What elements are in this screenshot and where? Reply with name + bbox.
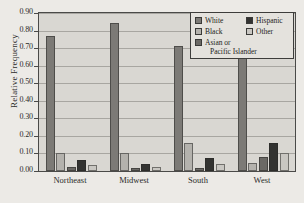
legend-label: Hispanic xyxy=(256,16,283,25)
y-axis-tick: 0.80 xyxy=(0,31,38,32)
bar xyxy=(259,157,268,171)
bar xyxy=(67,167,76,171)
legend-swatch xyxy=(195,39,202,46)
y-axis-tick: 0.00 xyxy=(0,171,38,172)
y-axis-tick-label: 0.40 xyxy=(19,95,33,104)
y-axis-tick-label: 0.60 xyxy=(19,60,33,69)
bar xyxy=(280,153,289,171)
bar xyxy=(238,58,247,171)
bar-chart: Relative Frequency 0.900.800.700.600.500… xyxy=(0,0,304,203)
legend-label: Black xyxy=(205,27,223,36)
bar xyxy=(248,163,257,171)
y-axis-tick: 0.50 xyxy=(0,83,38,84)
legend-item: Black xyxy=(195,27,223,36)
y-axis-tick-label: 0.50 xyxy=(19,77,33,86)
bar xyxy=(131,168,140,172)
bar xyxy=(174,46,183,171)
bar xyxy=(120,153,129,171)
legend-label: Asian orPacific Islander xyxy=(205,38,257,56)
y-axis-tick: 0.60 xyxy=(0,66,38,67)
x-axis-label: Midwest xyxy=(102,175,166,185)
bar xyxy=(195,168,204,172)
y-axis-tick: 0.30 xyxy=(0,118,38,119)
bar xyxy=(77,160,86,171)
y-axis-tick-label: 0.80 xyxy=(19,25,33,34)
y-axis-tick: 0.10 xyxy=(0,153,38,154)
legend-item: Other xyxy=(246,27,273,36)
y-axis-tick: 0.20 xyxy=(0,136,38,137)
y-axis-tick-label: 0.00 xyxy=(19,165,33,174)
legend-swatch xyxy=(246,17,253,24)
legend-swatch xyxy=(246,28,253,35)
bar xyxy=(216,164,225,171)
y-axis-tick-label: 0.10 xyxy=(19,147,33,156)
bar xyxy=(46,36,55,171)
y-axis-tick: 0.40 xyxy=(0,101,38,102)
legend-swatch xyxy=(195,28,202,35)
bar xyxy=(56,153,65,171)
bar xyxy=(184,143,193,171)
bar xyxy=(141,164,150,171)
chart-legend: WhiteBlackAsian orPacific IslanderHispan… xyxy=(190,12,294,59)
y-axis-tick: 0.70 xyxy=(0,48,38,49)
bar-group xyxy=(103,13,167,171)
bar xyxy=(269,143,278,171)
y-axis-ticks: 0.900.800.700.600.500.400.300.200.100.00 xyxy=(0,12,38,172)
legend-item: Asian orPacific Islander xyxy=(195,38,257,56)
y-axis-tick-label: 0.20 xyxy=(19,130,33,139)
legend-label: Other xyxy=(256,27,273,36)
bar xyxy=(205,158,214,171)
legend-item: Hispanic xyxy=(246,16,283,25)
bar xyxy=(152,167,161,171)
y-axis-tick-label: 0.70 xyxy=(19,42,33,51)
legend-label-line2: Pacific Islander xyxy=(205,47,257,56)
x-axis-label: West xyxy=(230,175,294,185)
y-axis-tick-label: 0.30 xyxy=(19,112,33,121)
x-axis-label: South xyxy=(166,175,230,185)
bar xyxy=(88,165,97,171)
legend-swatch xyxy=(195,17,202,24)
x-axis-label: Northeast xyxy=(38,175,102,185)
x-axis-labels: NortheastMidwestSouthWest xyxy=(38,175,296,191)
legend-label: White xyxy=(205,16,223,25)
y-axis-tick-label: 0.90 xyxy=(19,7,33,16)
legend-item: White xyxy=(195,16,223,25)
bar xyxy=(110,23,119,171)
y-axis-tick: 0.90 xyxy=(0,13,38,14)
bar-group xyxy=(39,13,103,171)
